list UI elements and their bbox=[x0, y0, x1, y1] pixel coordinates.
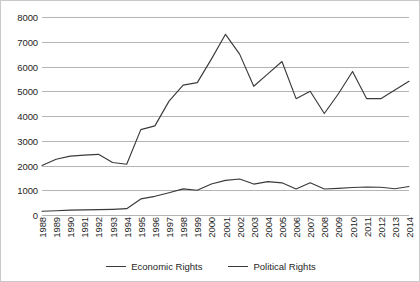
legend-line-swatch-icon bbox=[228, 266, 248, 267]
series-line-economic-rights bbox=[42, 179, 409, 211]
y-tick-label: 6000 bbox=[1, 61, 38, 72]
x-tick-label-1992: 1992 bbox=[93, 217, 104, 238]
x-tick-label-2011: 2011 bbox=[362, 217, 373, 237]
x-tick-label-2009: 2009 bbox=[333, 217, 344, 238]
chart-legend: Economic RightsPolitical Rights bbox=[1, 261, 420, 272]
x-tick-label-1996: 1996 bbox=[150, 217, 161, 238]
x-tick-label-1998: 1998 bbox=[178, 217, 189, 238]
x-tick-label-2007: 2007 bbox=[305, 217, 316, 238]
legend-label: Political Rights bbox=[253, 261, 315, 272]
x-tick-label-2001: 2001 bbox=[221, 217, 232, 238]
x-tick-label-2014: 2014 bbox=[404, 217, 415, 238]
x-tick-label-2008: 2008 bbox=[319, 217, 330, 238]
y-tick-label: 4000 bbox=[1, 111, 38, 122]
series-container bbox=[42, 17, 409, 215]
x-tick-label-2012: 2012 bbox=[376, 217, 387, 238]
y-tick-label: 3000 bbox=[1, 135, 38, 146]
x-tick-label-1999: 1999 bbox=[192, 217, 203, 238]
line-chart-figure: 010002000300040005000600070008000 198819… bbox=[0, 0, 420, 282]
x-tick-label-1990: 1990 bbox=[65, 217, 76, 238]
y-tick-label: 7000 bbox=[1, 36, 38, 47]
x-tick-label-2005: 2005 bbox=[277, 217, 288, 238]
legend-item-economic-rights[interactable]: Economic Rights bbox=[106, 261, 202, 272]
plot-area bbox=[42, 17, 409, 215]
x-tick-label-2000: 2000 bbox=[206, 217, 217, 238]
y-tick-label: 8000 bbox=[1, 12, 38, 23]
x-tick-label-1995: 1995 bbox=[136, 217, 147, 238]
x-tick-label-2013: 2013 bbox=[390, 217, 401, 238]
x-tick-label-1988: 1988 bbox=[37, 217, 48, 238]
x-tick-label-1997: 1997 bbox=[164, 217, 175, 238]
y-tick-label: 5000 bbox=[1, 86, 38, 97]
gridline-0 bbox=[42, 215, 409, 216]
x-tick-label-2006: 2006 bbox=[291, 217, 302, 238]
y-tick-label: 0 bbox=[1, 210, 38, 221]
legend-item-political-rights[interactable]: Political Rights bbox=[228, 261, 315, 272]
x-tick-label-1989: 1989 bbox=[51, 217, 62, 238]
y-tick-label: 2000 bbox=[1, 160, 38, 171]
x-tick-label-1994: 1994 bbox=[122, 217, 133, 238]
x-tick-label-2003: 2003 bbox=[249, 217, 260, 238]
x-tick-label-2004: 2004 bbox=[263, 217, 274, 238]
x-tick-label-1993: 1993 bbox=[108, 217, 119, 238]
series-line-political-rights bbox=[42, 34, 409, 165]
y-tick-label: 1000 bbox=[1, 185, 38, 196]
legend-line-swatch-icon bbox=[106, 266, 126, 267]
x-tick-label-2010: 2010 bbox=[348, 217, 359, 238]
legend-label: Economic Rights bbox=[131, 261, 202, 272]
x-tick-label-1991: 1991 bbox=[79, 217, 90, 238]
x-tick-label-2002: 2002 bbox=[235, 217, 246, 238]
y-axis: 010002000300040005000600070008000 bbox=[1, 1, 38, 282]
x-axis: 1988198919901991199219931994199519961997… bbox=[42, 217, 409, 259]
